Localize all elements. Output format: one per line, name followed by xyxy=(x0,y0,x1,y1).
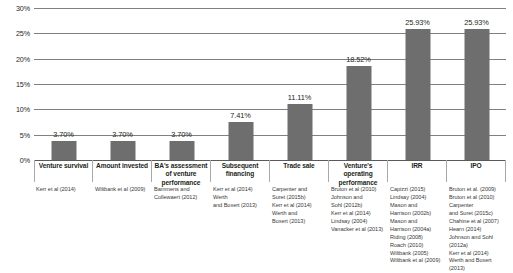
bar-value-label: 11.11% xyxy=(288,93,311,102)
y-axis-tick-label: 0% xyxy=(20,156,30,165)
plot-area: 0%5%10%15%20%25%30% 3.70%3.70%3.70%7.41%… xyxy=(34,8,506,160)
citation-cell: Bruton et al. (2009) Bruton et al (2010)… xyxy=(447,186,506,273)
bar[interactable] xyxy=(51,141,76,160)
bar[interactable] xyxy=(228,122,253,160)
bar-column: 3.70% xyxy=(152,8,211,160)
citation-cell: Carpenter and Suret (2015b) Kerr et al (… xyxy=(270,186,329,226)
category-cell: Venture's operating performance xyxy=(329,160,388,182)
citation-cell: Kerr et al (2014) Werth and Boxert (2013… xyxy=(211,186,270,210)
citation-text: Carpenter and Suret (2015b) Kerr et al (… xyxy=(272,186,327,226)
citation-cell: Bruton et al (2010) Johnson and Sohl (20… xyxy=(329,186,388,234)
category-cell: Venture survival xyxy=(34,160,93,182)
bar-column: 18.52% xyxy=(329,8,388,160)
citation-text: Kerr et al (2014) xyxy=(36,186,91,194)
category-cell: Amount invested xyxy=(93,160,152,182)
citation-cell: Kerr et al (2014) xyxy=(34,186,93,194)
citation-text: Bruton et al (2010) Johnson and Sohl (20… xyxy=(331,186,386,234)
bar-column: 25.93% xyxy=(388,8,447,160)
bar-column: 11.11% xyxy=(270,8,329,160)
bar-column: 25.93% xyxy=(447,8,506,160)
citation-text: Bammens and Collewaert (2012) xyxy=(154,186,209,202)
citations-band: Kerr et al (2014)Wiltbank et al (2009)Ba… xyxy=(34,186,506,266)
y-axis-tick-label: 5% xyxy=(20,130,30,139)
bar-column: 7.41% xyxy=(211,8,270,160)
bar[interactable] xyxy=(110,141,135,160)
category-cell: Subsequent financing xyxy=(211,160,270,182)
bar-value-label: 3.70% xyxy=(171,130,191,139)
y-axis-tick-label: 25% xyxy=(16,29,30,38)
category-label: IRR xyxy=(411,162,422,170)
bar-value-label: 25.93% xyxy=(464,18,488,27)
bar[interactable] xyxy=(464,29,489,160)
citation-cell: Bammens and Collewaert (2012) xyxy=(152,186,211,202)
y-axis-tick-label: 30% xyxy=(16,4,30,13)
category-axis: Venture survivalAmount investedBA's asse… xyxy=(34,160,506,182)
bar-column: 3.70% xyxy=(93,8,152,160)
category-cell: BA's assessment of venture performance xyxy=(152,160,211,182)
y-axis-tick-label: 10% xyxy=(16,105,30,114)
bar[interactable] xyxy=(169,141,194,160)
category-label: Amount invested xyxy=(96,162,148,170)
category-cell: IPO xyxy=(447,160,506,182)
citation-cell: Wiltbank et al (2009) xyxy=(93,186,152,194)
bar-value-label: 3.70% xyxy=(53,130,73,139)
category-label: Trade sale xyxy=(283,162,314,170)
bar[interactable] xyxy=(287,104,312,160)
category-label: Venture's operating performance xyxy=(329,162,387,187)
category-label: Venture survival xyxy=(39,162,88,170)
category-label: Subsequent financing xyxy=(211,162,269,179)
citation-text: Capizzi (2015) Lindsay (2004) Mason and … xyxy=(390,186,445,265)
y-axis-tick-label: 15% xyxy=(16,80,30,89)
bar-value-label: 3.70% xyxy=(112,130,132,139)
citation-text: Kerr et al (2014) Werth and Boxert (2013… xyxy=(213,186,268,210)
bar[interactable] xyxy=(405,29,430,160)
citation-text: Wiltbank et al (2009) xyxy=(95,186,150,194)
bars-group: 3.70%3.70%3.70%7.41%11.11%18.52%25.93%25… xyxy=(34,8,506,160)
category-label: BA's assessment of venture performance xyxy=(152,162,210,187)
bar-value-label: 7.41% xyxy=(230,111,250,120)
bar-value-label: 25.93% xyxy=(405,18,429,27)
category-cell: Trade sale xyxy=(270,160,329,182)
category-label: IPO xyxy=(470,162,481,170)
citation-text: Bruton et al. (2009) Bruton et al (2010)… xyxy=(449,186,504,273)
bar-value-label: 18.52% xyxy=(346,55,370,64)
bar[interactable] xyxy=(346,66,371,160)
bar-column: 3.70% xyxy=(34,8,93,160)
y-axis-tick-label: 20% xyxy=(16,54,30,63)
category-cell: IRR xyxy=(388,160,447,182)
citation-cell: Capizzi (2015) Lindsay (2004) Mason and … xyxy=(388,186,447,265)
